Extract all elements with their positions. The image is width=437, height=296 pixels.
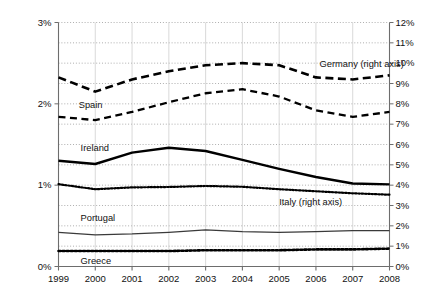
y-tick-label-right-8%: 8% [396,98,428,109]
series-label-germany-right-axis: Germany (right axis) [320,59,404,69]
y-tick-label-right-2%: 2% [396,220,428,231]
x-tick-label-2008: 2008 [370,273,410,284]
y-tick-label-right-0%: 0% [396,261,428,272]
y-tick-label-right-4%: 4% [396,179,428,190]
x-tick-label-2001: 2001 [112,273,152,284]
chart-container: Share of global merchandise exports 0%1%… [0,0,437,296]
x-tick-label-2006: 2006 [296,273,336,284]
series-label-greece: Greece [81,256,112,266]
y-tick-label-right-6%: 6% [396,139,428,150]
series-line-italy-right-axis [59,184,390,195]
y-tick-label-right-5%: 5% [396,159,428,170]
series-line-greece [59,249,390,251]
y-tick-label-right-3%: 3% [396,200,428,211]
series-label-italy-right-axis: Italy (right axis) [279,197,342,207]
y-tick-label-left-3%: 3% [22,17,52,28]
y-tick-label-left-0%: 0% [22,261,52,272]
x-tick-label-2000: 2000 [75,273,115,284]
x-tick-label-2005: 2005 [259,273,299,284]
series-label-portugal: Portugal [81,213,116,223]
y-tick-label-right-1%: 1% [396,240,428,251]
series-label-ireland: Ireland [81,143,109,153]
series-line-portugal [59,230,390,235]
series-line-spain [59,89,390,120]
y-tick-label-right-11%: 11% [396,37,428,48]
chart-plot-area [0,0,437,296]
y-tick-label-right-12%: 12% [396,17,428,28]
x-tick-label-1999: 1999 [39,273,79,284]
x-tick-label-2007: 2007 [333,273,373,284]
y-tick-label-left-2%: 2% [22,98,52,109]
x-tick-label-2004: 2004 [222,273,262,284]
x-tick-label-2002: 2002 [149,273,189,284]
y-tick-label-left-1%: 1% [22,179,52,190]
series-label-spain: Spain [79,100,103,110]
y-tick-label-right-9%: 9% [396,78,428,89]
y-tick-label-right-7%: 7% [396,118,428,129]
x-tick-label-2003: 2003 [186,273,226,284]
